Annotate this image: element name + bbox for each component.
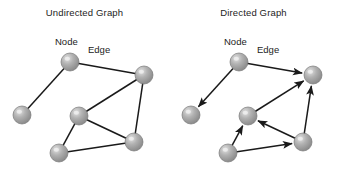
undirected-edge: [63, 123, 76, 147]
node-highlight: [243, 111, 248, 115]
undirected-edge: [27, 68, 65, 110]
annotation-node-label-directed: Node: [224, 36, 247, 47]
undirected-edge: [85, 79, 137, 112]
node-highlight: [17, 110, 22, 114]
undirected-edge: [66, 143, 126, 152]
directed-edge: [254, 81, 303, 112]
node-highlight: [139, 70, 144, 74]
graph-node: [239, 107, 257, 125]
node-highlight: [129, 137, 134, 141]
panel-directed-graph: Directed Graph Node Edge: [169, 0, 338, 179]
graph-node: [230, 53, 248, 71]
directed-edge: [232, 126, 243, 147]
annotation-edge-label-directed: Edge: [257, 44, 279, 55]
node-highlight: [234, 57, 239, 61]
graph-node: [61, 53, 79, 71]
node-highlight: [54, 148, 59, 152]
graph-node: [50, 144, 68, 162]
graph-node: [294, 133, 312, 151]
panel-undirected-graph: Undirected Graph Node Edge: [0, 0, 169, 179]
directed-edge: [304, 86, 311, 135]
node-highlight: [65, 57, 70, 61]
graph-node: [182, 106, 200, 124]
node-highlight: [298, 137, 303, 141]
graph-node: [70, 107, 88, 125]
undirected-edge: [135, 82, 143, 134]
annotation-node-label-undirected: Node: [55, 36, 78, 47]
directed-edge: [246, 63, 302, 73]
node-group: [182, 53, 322, 162]
directed-edge: [198, 68, 234, 107]
node-group: [13, 53, 153, 162]
undirected-edge: [77, 63, 136, 73]
undirected-graph-canvas: [0, 0, 169, 179]
directed-graph-canvas: [169, 0, 338, 179]
graph-types-figure: Undirected Graph Node Edge Directed Grap…: [0, 0, 339, 179]
graph-node: [13, 106, 31, 124]
node-highlight: [308, 70, 313, 74]
undirected-edge: [86, 119, 127, 139]
node-highlight: [223, 148, 228, 152]
graph-node: [219, 144, 237, 162]
annotation-edge-label-undirected: Edge: [88, 44, 110, 55]
graph-node: [304, 66, 322, 84]
directed-edge: [258, 121, 296, 139]
node-highlight: [186, 110, 191, 114]
graph-node: [125, 133, 143, 151]
node-highlight: [74, 111, 79, 115]
graph-node: [135, 66, 153, 84]
directed-edge: [235, 144, 292, 152]
